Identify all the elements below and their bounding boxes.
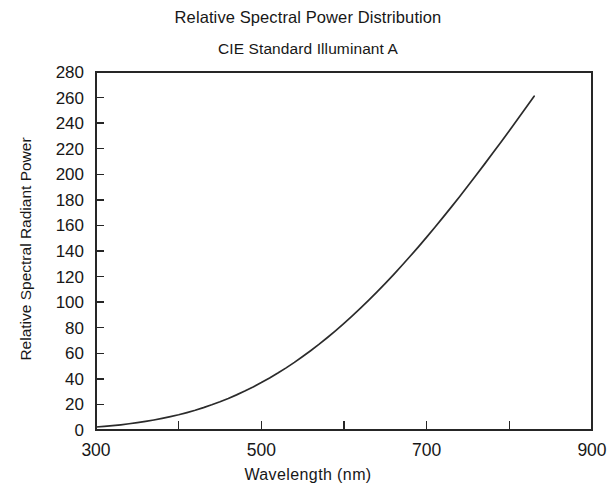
y-tick-label-0: 0 xyxy=(75,421,84,440)
y-tick-label-180: 180 xyxy=(56,191,84,210)
axes-frame xyxy=(96,72,592,430)
y-tick-label-160: 160 xyxy=(56,216,84,235)
plot-area: 020406080100120140160180200220240260280 … xyxy=(0,0,616,498)
x-tick-label-300: 300 xyxy=(81,440,110,460)
y-tick-label-200: 200 xyxy=(56,165,84,184)
y-tick-label-80: 80 xyxy=(65,319,84,338)
y-tick-label-140: 140 xyxy=(56,242,84,261)
x-tick-label-500: 500 xyxy=(247,440,276,460)
x-axis-ticks: 300500700900 xyxy=(81,421,606,460)
y-tick-label-100: 100 xyxy=(56,293,84,312)
y-tick-label-220: 220 xyxy=(56,140,84,159)
y-tick-label-260: 260 xyxy=(56,89,84,108)
data-series-group xyxy=(96,96,534,427)
series-line-0 xyxy=(96,96,534,427)
y-tick-label-120: 120 xyxy=(56,268,84,287)
spectral-power-distribution-figure: Relative Spectral Power Distribution CIE… xyxy=(0,0,616,498)
x-tick-label-900: 900 xyxy=(577,440,606,460)
y-tick-label-60: 60 xyxy=(65,344,84,363)
y-tick-label-280: 280 xyxy=(56,63,84,82)
y-tick-label-40: 40 xyxy=(65,370,84,389)
y-tick-label-240: 240 xyxy=(56,114,84,133)
y-tick-label-20: 20 xyxy=(65,395,84,414)
x-tick-label-700: 700 xyxy=(412,440,441,460)
